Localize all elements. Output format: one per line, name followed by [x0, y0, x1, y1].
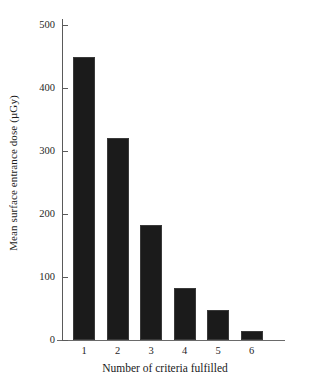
y-axis-tick-mark — [62, 25, 68, 26]
bar — [107, 138, 129, 340]
y-axis-tick: 400 — [0, 88, 62, 89]
x-axis-tick-label: 3 — [134, 344, 168, 358]
y-axis-tick-mark — [62, 277, 68, 278]
bar-chart: Mean surface entrance dose (µGy) 0100200… — [0, 0, 315, 389]
y-axis-title-text: Mean surface entrance dose (µGy) — [7, 95, 19, 251]
bar — [140, 225, 162, 340]
bar — [207, 310, 229, 340]
bar-rect — [174, 288, 196, 340]
y-axis-tick: 300 — [0, 151, 62, 152]
y-axis-tick-label: 100 — [39, 270, 55, 283]
y-axis-tick-label: 200 — [39, 207, 55, 220]
x-axis-tick-label: 6 — [235, 344, 269, 358]
x-axis-title: Number of criteria fulfilled — [40, 362, 290, 374]
y-axis-tick-label: 0 — [50, 333, 55, 346]
x-axis-tick-label: 2 — [101, 344, 135, 358]
x-axis-tick-label: 5 — [201, 344, 235, 358]
x-axis-tick-label: 4 — [168, 344, 202, 358]
y-axis-line — [62, 19, 63, 341]
y-axis-tick: 0 — [0, 340, 62, 341]
y-axis-title: Mean surface entrance dose (µGy) — [0, 0, 26, 345]
y-axis-tick-label: 500 — [39, 18, 55, 31]
bar — [174, 288, 196, 340]
y-axis-tick: 100 — [0, 277, 62, 278]
bar-rect — [241, 331, 263, 340]
bar-rect — [73, 57, 95, 341]
bar-rect — [207, 310, 229, 340]
x-axis-tick-label: 1 — [67, 344, 101, 358]
y-axis-tick-mark — [62, 340, 68, 341]
y-axis-tick-mark — [62, 214, 68, 215]
y-axis-tick-label: 300 — [39, 144, 55, 157]
y-axis-tick: 200 — [0, 214, 62, 215]
bar — [241, 331, 263, 340]
y-axis-tick-label: 400 — [39, 81, 55, 94]
y-axis-tick-mark — [62, 88, 68, 89]
y-axis-tick-mark — [62, 151, 68, 152]
y-axis-tick: 500 — [0, 25, 62, 26]
bar — [73, 57, 95, 341]
bar-rect — [107, 138, 129, 340]
x-axis-line — [57, 340, 285, 341]
bar-rect — [140, 225, 162, 340]
